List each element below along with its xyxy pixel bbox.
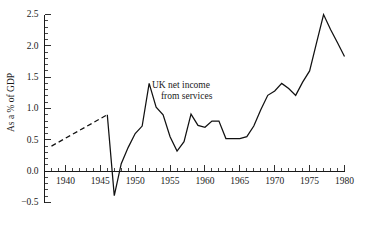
y-tick-label: −0.5 [21,197,38,207]
y-axis-group: −0.50.00.51.01.52.02.5 [21,9,50,207]
x-axis-ticks [45,165,345,171]
chart-figure: −0.50.00.51.01.52.02.5 19401945195019551… [0,0,369,229]
y-axis-ticks [45,15,51,203]
y-tick-label: 2.5 [27,9,39,19]
annotation-line: UK net income [152,80,210,90]
chart-svg: −0.50.00.51.01.52.02.5 19401945195019551… [0,0,369,229]
x-tick-label: 1975 [300,176,319,186]
x-tick-label: 1950 [126,176,145,186]
series-label: UK net incomefrom services [152,80,213,101]
y-axis-title: As a % of GDP [6,73,16,132]
y-axis-tick-labels: −0.50.00.51.01.52.02.5 [21,9,38,207]
x-tick-label: 1955 [161,176,180,186]
x-tick-label: 1970 [265,176,284,186]
annotation-line: from services [161,91,213,101]
y-tick-label: 1.0 [27,103,39,113]
x-tick-label: 1940 [56,176,75,186]
y-tick-label: 2.0 [27,41,39,51]
y-tick-label: 0.5 [27,135,39,145]
x-tick-label: 1980 [335,176,354,186]
x-axis-tick-labels: 194019451950195519601965197019751980 [56,176,354,186]
x-tick-label: 1945 [91,176,110,186]
series-line-1 [51,115,107,146]
x-tick-label: 1965 [230,176,249,186]
y-tick-label: 1.5 [27,72,39,82]
y-tick-label: 0.0 [27,166,39,176]
x-axis-group: 194019451950195519601965197019751980 [45,165,355,185]
chart-annotations: UK net incomefrom services [152,80,213,101]
x-tick-label: 1960 [195,176,214,186]
